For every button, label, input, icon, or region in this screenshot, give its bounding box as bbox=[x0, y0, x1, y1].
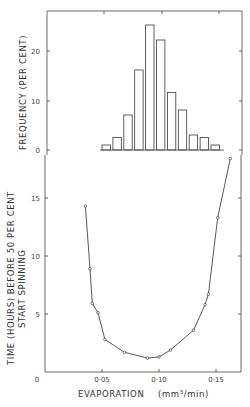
histogram-bar bbox=[113, 138, 121, 151]
bottom-ytick-10: 10 bbox=[31, 253, 40, 261]
histogram-bar bbox=[135, 70, 143, 150]
data-point-marker bbox=[146, 357, 149, 360]
histogram-bar bbox=[102, 145, 110, 150]
data-point-marker bbox=[123, 351, 126, 354]
line-panel: 15 10 5 0 0·05 0·10 0·15 TIME (HOURS) BE… bbox=[6, 155, 241, 399]
histogram-bar bbox=[146, 25, 154, 150]
top-y-axis-title: FREQUENCY (PER CENT) bbox=[18, 35, 28, 150]
histogram-bar bbox=[189, 135, 197, 150]
bottom-ytick-5: 5 bbox=[36, 311, 40, 319]
data-point-marker bbox=[104, 338, 107, 341]
data-point-marker bbox=[207, 293, 210, 296]
histogram-bar bbox=[167, 93, 175, 151]
histogram-bar bbox=[124, 115, 132, 150]
data-point-marker bbox=[169, 349, 172, 352]
xtick-010: 0·10 bbox=[151, 376, 167, 384]
xtick-015: 0·15 bbox=[208, 376, 224, 384]
bottom-ytick-15: 15 bbox=[31, 195, 40, 203]
data-point-marker bbox=[97, 312, 100, 315]
data-point-marker bbox=[89, 268, 92, 271]
data-point-marker bbox=[192, 329, 195, 332]
bottom-y-axis-title-line2: START SPINNING bbox=[17, 249, 27, 328]
histogram-bar bbox=[157, 40, 165, 150]
histogram-bars bbox=[102, 25, 219, 150]
bottom-y-axis-title-line1: TIME (HOURS) BEFORE 50 PER CENT bbox=[6, 191, 16, 366]
top-ytick-20: 20 bbox=[31, 48, 40, 56]
figure: 20 10 0 FREQUENCY (PER CENT) 15 10 5 0 0… bbox=[0, 0, 250, 407]
data-point-marker bbox=[91, 302, 94, 305]
top-ytick-10: 10 bbox=[31, 98, 40, 106]
top-ytick-0: 0 bbox=[36, 147, 40, 155]
data-point-marker bbox=[216, 216, 219, 219]
histogram-panel: 20 10 0 FREQUENCY (PER CENT) bbox=[18, 11, 242, 155]
data-point-marker bbox=[158, 356, 161, 359]
histogram-bar bbox=[200, 138, 208, 151]
xtick-0: 0 bbox=[35, 376, 39, 384]
x-axis-title: EVAPORATION bbox=[78, 389, 144, 399]
data-point-marker bbox=[84, 205, 87, 208]
data-point-marker bbox=[204, 303, 207, 306]
evaporation-curve bbox=[85, 159, 230, 359]
histogram-bar bbox=[178, 110, 186, 150]
histogram-bar bbox=[211, 145, 219, 150]
xtick-005: 0·05 bbox=[94, 376, 110, 384]
data-point-marker bbox=[229, 157, 232, 160]
x-axis-unit: (mm³/min) bbox=[158, 389, 209, 399]
data-markers bbox=[84, 157, 232, 359]
